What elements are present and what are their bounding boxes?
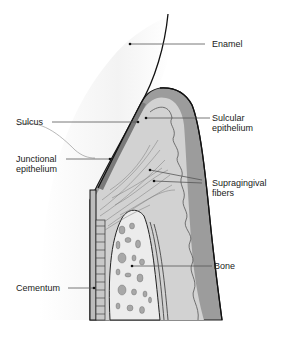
label-sulcular-line1: Sulcular bbox=[212, 113, 253, 123]
root-dentin bbox=[90, 190, 96, 320]
label-bone: Bone bbox=[214, 261, 235, 271]
cementum-strip bbox=[96, 220, 105, 320]
label-junctional-epithelium: Junctional epithelium bbox=[16, 154, 57, 174]
label-supragingival-line1: Supragingival bbox=[212, 178, 267, 188]
label-supragingival-line2: fibers bbox=[212, 188, 267, 198]
label-junctional-line1: Junctional bbox=[16, 154, 57, 164]
label-enamel: Enamel bbox=[212, 39, 243, 49]
label-sulcular-epithelium: Sulcular epithelium bbox=[212, 113, 253, 133]
label-sulcus: Sulcus bbox=[16, 117, 43, 127]
label-sulcular-line2: epithelium bbox=[212, 123, 253, 133]
label-supragingival-fibers: Supragingival fibers bbox=[212, 178, 267, 198]
label-junctional-line2: epithelium bbox=[16, 164, 57, 174]
label-cementum: Cementum bbox=[16, 283, 60, 293]
